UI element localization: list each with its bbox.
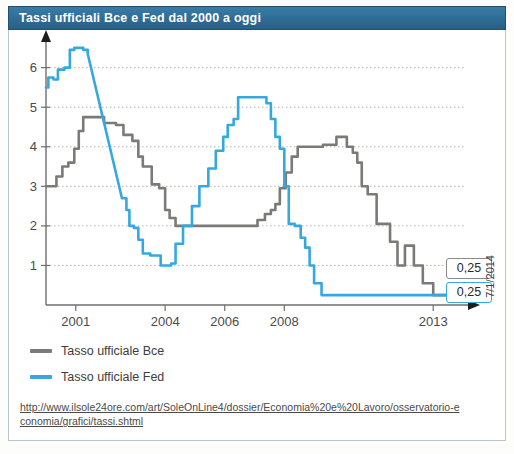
legend-swatch-bce — [30, 349, 52, 353]
y-axis-arrow-icon — [41, 30, 51, 42]
series-line-fed — [46, 48, 463, 295]
page-title: Tassi ufficiali Bce e Fed dal 2000 a ogg… — [19, 11, 261, 25]
legend-item-bce: Tasso ufficiale Bce — [30, 338, 290, 364]
legend-label-fed: Tasso ufficiale Fed — [61, 370, 164, 384]
svg-text:2: 2 — [30, 218, 37, 233]
callout-date-label: 7/1/2014 — [484, 255, 496, 298]
screenshot-root: Tassi ufficiali Bce e Fed dal 2000 a ogg… — [0, 0, 514, 454]
line-chart: 123456 20012004200620082013 — [8, 30, 506, 330]
legend-item-fed: Tasso ufficiale Fed — [30, 364, 290, 390]
svg-text:4: 4 — [30, 139, 37, 154]
y-axis-ticks-group: 123456 — [30, 60, 50, 273]
svg-text:1: 1 — [30, 258, 37, 273]
title-bar: Tassi ufficiali Bce e Fed dal 2000 a ogg… — [8, 6, 506, 30]
legend-label-bce: Tasso ufficiale Bce — [61, 344, 164, 358]
svg-text:5: 5 — [30, 100, 37, 115]
source-url-link[interactable]: http://www.ilsole24ore.com/art/SoleOnLin… — [20, 400, 460, 428]
series-group — [46, 48, 463, 295]
svg-text:2004: 2004 — [151, 314, 180, 329]
x-axis-ticks-group: 20012004200620082013 — [61, 305, 447, 329]
svg-text:3: 3 — [30, 179, 37, 194]
svg-text:2006: 2006 — [210, 314, 239, 329]
svg-text:6: 6 — [30, 60, 37, 75]
chart-legend: Tasso ufficiale Bce Tasso ufficiale Fed — [30, 338, 290, 390]
chart-plot-area: 123456 20012004200620082013 — [8, 30, 506, 330]
legend-swatch-fed — [30, 375, 52, 379]
svg-text:2013: 2013 — [419, 314, 448, 329]
svg-text:2001: 2001 — [61, 314, 90, 329]
svg-text:2008: 2008 — [270, 314, 299, 329]
